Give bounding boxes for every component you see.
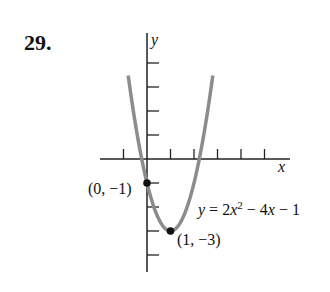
equation-label: y = 2x2 − 4x − 1 [196, 199, 300, 219]
point-marker [167, 227, 175, 235]
point-marker [143, 179, 151, 187]
point-label-1-neg3: (1, −3) [177, 231, 221, 249]
point-label-0-neg1: (0, −1) [88, 180, 132, 198]
x-axis-label: x [277, 158, 285, 175]
y-axis-label: y [149, 31, 159, 49]
parabola-chart: y x y = 2x2 − 4x − 1 (0, −1) (1, −3) [0, 0, 330, 292]
x-ticks [124, 149, 265, 159]
